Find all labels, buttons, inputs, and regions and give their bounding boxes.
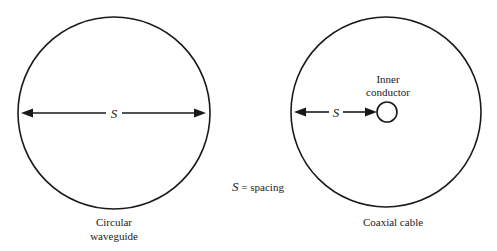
spacing-legend: S = spacing: [232, 179, 284, 194]
coax-label: Coaxial cable: [363, 216, 423, 228]
coaxial-cable: S Inner conductor Coaxial cable: [291, 17, 481, 228]
waveguide-spacing-symbol: S: [111, 106, 118, 121]
waveguide-label-line2: waveguide: [90, 230, 138, 242]
waveguide-coax-diagram: S Circular waveguide S = spacing S Inner…: [0, 0, 497, 251]
coax-spacing-arrow: S: [294, 105, 377, 120]
waveguide-spacing-arrow: S: [21, 106, 206, 121]
circular-waveguide: S Circular waveguide: [18, 17, 210, 242]
coax-inner-conductor: [377, 102, 397, 122]
arrowhead-right-icon: [365, 108, 377, 117]
coax-spacing-symbol: S: [333, 105, 340, 120]
waveguide-label-line1: Circular: [96, 216, 132, 228]
arrowhead-right-icon: [194, 109, 206, 118]
arrowhead-left-icon: [21, 109, 33, 118]
spacing-legend-text: = spacing: [239, 181, 285, 193]
inner-conductor-label-line1: Inner: [376, 73, 400, 85]
arrowhead-left-icon: [294, 108, 306, 117]
inner-conductor-label-line2: conductor: [366, 86, 410, 98]
